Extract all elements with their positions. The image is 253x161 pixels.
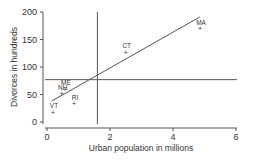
x-axis-label: Urban population in millions bbox=[89, 143, 193, 153]
y-tick-label: 100 bbox=[22, 62, 37, 72]
data-point-label: RI bbox=[72, 94, 79, 101]
regression-line bbox=[52, 17, 200, 101]
data-point-label: VT bbox=[50, 102, 58, 109]
scatter-chart: 050100150200 0246 +VT+NH+ME+RI+CT+MA Urb… bbox=[0, 0, 253, 161]
data-points: +VT+NH+ME+RI+CT+MA bbox=[50, 19, 207, 116]
data-point-label: ME bbox=[61, 79, 71, 86]
y-tick-label: 0 bbox=[32, 117, 37, 127]
x-tick-label: 6 bbox=[233, 132, 238, 142]
data-point-label: CT bbox=[122, 42, 131, 49]
data-point-marker: + bbox=[124, 49, 128, 56]
y-tick-label: 50 bbox=[27, 90, 37, 100]
x-tick-label: 4 bbox=[170, 132, 175, 142]
data-point-marker: + bbox=[63, 86, 67, 93]
data-point-marker: + bbox=[198, 25, 202, 32]
y-tick-label: 150 bbox=[22, 35, 37, 45]
y-ticks: 050100150200 bbox=[22, 7, 43, 127]
y-tick-label: 200 bbox=[22, 7, 37, 17]
data-point-marker: + bbox=[72, 100, 76, 107]
x-tick-label: 0 bbox=[44, 132, 49, 142]
data-point-label: MA bbox=[196, 19, 206, 26]
x-ticks: 0246 bbox=[44, 128, 238, 142]
x-tick-label: 2 bbox=[107, 132, 112, 142]
data-point-marker: + bbox=[51, 109, 55, 116]
y-axis-label: Divorces in hundreds bbox=[9, 27, 19, 107]
